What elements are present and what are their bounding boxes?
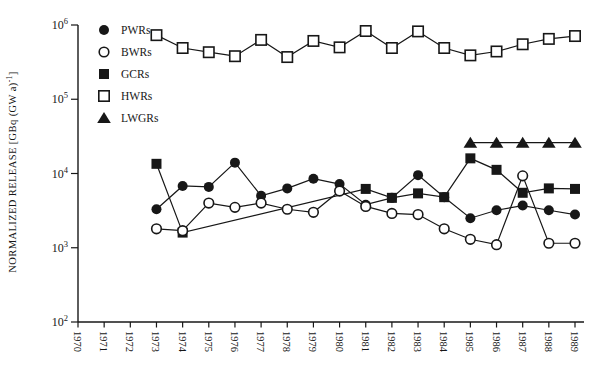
data-point: [439, 192, 449, 202]
data-point: [204, 47, 214, 57]
data-point: [308, 36, 318, 46]
x-tick-label: 1974: [177, 331, 188, 353]
y-tick-label: 102: [52, 313, 68, 329]
legend-item-BWRs: BWRs: [99, 46, 152, 58]
data-point: [230, 51, 240, 61]
data-point: [152, 224, 162, 234]
data-point: [544, 34, 554, 44]
legend-label: BWRs: [121, 46, 152, 58]
data-point: [413, 26, 423, 36]
data-point: [309, 208, 319, 218]
series-BWRs: [152, 171, 580, 249]
data-point: [439, 224, 449, 234]
data-point: [178, 226, 188, 236]
normalized-release-chart: 1061051041031021970197119721973197419751…: [0, 0, 611, 369]
data-point: [544, 205, 554, 215]
data-point: [387, 43, 397, 53]
data-point: [518, 201, 528, 211]
data-point: [99, 69, 109, 79]
x-tick-label: 1987: [517, 331, 528, 352]
x-tick-label: 1978: [281, 331, 292, 352]
data-point: [99, 47, 109, 57]
data-point: [492, 165, 502, 175]
x-tick-label: 1983: [412, 331, 423, 352]
data-point: [361, 26, 371, 36]
data-point: [465, 50, 475, 60]
data-point: [335, 186, 345, 196]
data-point: [97, 112, 111, 123]
x-tick-label: 1981: [360, 331, 371, 352]
data-point: [492, 205, 502, 215]
data-point: [282, 52, 292, 62]
data-point: [466, 234, 476, 244]
data-point: [282, 183, 292, 193]
data-point: [570, 210, 580, 220]
data-point: [99, 91, 109, 101]
x-tick-label: 1975: [203, 331, 214, 352]
y-axis-label: NORMALIZED RELEASE [GBq (GW a)-1]: [5, 71, 19, 272]
data-point: [151, 159, 161, 169]
y-tick-label: 106: [52, 16, 68, 32]
data-point: [439, 43, 449, 53]
series-LWGRs: [464, 137, 582, 148]
legend-label: GCRs: [121, 68, 150, 80]
y-tick-label: 103: [52, 239, 68, 255]
data-point: [230, 203, 240, 213]
data-point: [387, 193, 397, 203]
data-point: [256, 35, 266, 45]
legend-item-GCRs: GCRs: [99, 68, 150, 80]
x-tick-label: 1988: [543, 331, 554, 352]
y-tick-label: 105: [52, 90, 68, 106]
legend-item-PWRs: PWRs: [99, 24, 151, 36]
data-point: [570, 238, 580, 248]
data-point: [544, 238, 554, 248]
figure: 1061051041031021970197119721973197419751…: [0, 0, 611, 369]
data-point: [492, 240, 502, 250]
data-point: [413, 170, 423, 180]
data-point: [308, 174, 318, 184]
legend-label: LWGRs: [121, 112, 159, 124]
data-point: [282, 204, 292, 214]
data-point: [413, 210, 423, 220]
legend-label: PWRs: [121, 24, 151, 36]
x-tick-label: 1971: [98, 331, 109, 352]
x-tick-label: 1982: [386, 331, 397, 352]
legend-item-LWGRs: LWGRs: [97, 112, 159, 124]
data-point: [518, 188, 528, 198]
data-point: [204, 182, 214, 192]
data-point: [387, 209, 397, 219]
x-tick-label: 1979: [307, 331, 318, 352]
series-HWRs: [151, 26, 580, 62]
data-point: [204, 198, 214, 208]
data-point: [334, 42, 344, 52]
data-point: [256, 198, 266, 208]
x-tick-label: 1980: [334, 331, 345, 352]
x-tick-label: 1986: [491, 331, 502, 352]
data-point: [491, 46, 501, 56]
data-point: [361, 184, 371, 194]
data-point: [177, 43, 187, 53]
x-tick-label: 1976: [229, 331, 240, 352]
series-line-GCRs: [156, 158, 575, 232]
x-tick-label: 1973: [150, 331, 161, 352]
data-point: [230, 158, 240, 168]
data-point: [151, 30, 161, 40]
y-tick-label: 104: [52, 165, 69, 181]
data-point: [99, 25, 109, 35]
legend-label: HWRs: [121, 90, 153, 102]
data-point: [361, 202, 371, 212]
x-tick-label: 1989: [569, 331, 580, 352]
data-point: [570, 31, 580, 41]
data-point: [151, 204, 161, 214]
legend-item-HWRs: HWRs: [99, 90, 153, 102]
x-tick-label: 1984: [438, 331, 449, 353]
x-tick-label: 1977: [255, 331, 266, 352]
data-point: [570, 184, 580, 194]
data-point: [517, 39, 527, 49]
x-tick-label: 1970: [72, 331, 83, 352]
data-point: [465, 213, 475, 223]
data-point: [544, 183, 554, 193]
data-point: [178, 181, 188, 191]
x-tick-label: 1972: [124, 331, 135, 352]
data-point: [518, 171, 528, 181]
